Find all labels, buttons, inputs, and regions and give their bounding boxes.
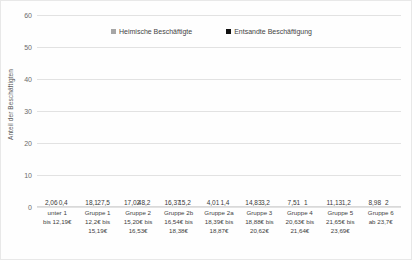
bar-group: 17,0248,2 <box>118 15 158 207</box>
bar-value-label: 15,2 <box>178 200 191 207</box>
legend-item[interactable]: Entsandte Beschäftigung <box>226 28 312 35</box>
category-label: Gruppe 2b16,54€ bis18,38€ <box>158 209 198 255</box>
category-label-line: Gruppe 3 <box>240 209 278 218</box>
bar-value-label: 27,5 <box>97 200 110 207</box>
chart-legend: Heimische BeschäftigteEntsandte Beschäft… <box>111 28 312 35</box>
y-axis-title-text: Anteil der Beschäftigten <box>8 68 15 139</box>
category-label-line: Gruppe 2b <box>159 209 197 218</box>
category-label-line: 18,88€ bis <box>240 218 278 227</box>
category-label-line: Gruppe 4 <box>281 209 319 218</box>
x-axis-category-labels: unter 1bis 12,19€Gruppe 112,2€ bis15,19€… <box>37 209 401 255</box>
bar-value-label: 1 <box>304 200 308 207</box>
category-label-line: bis 12,19€ <box>38 218 76 227</box>
legend-label: Heimische Beschäftigte <box>119 28 192 35</box>
y-axis-tick-label: 0 <box>28 204 32 211</box>
grid-line: 0 <box>37 207 401 208</box>
category-label-line: 21,64€ <box>281 227 319 236</box>
category-label: unter 1bis 12,19€ <box>37 209 77 255</box>
bar-chart: Anteil der Beschäftigten 6050403020100 2… <box>0 0 412 260</box>
category-label-line: 20,63€ bis <box>281 218 319 227</box>
category-label-line: 16,54€ bis <box>159 218 197 227</box>
bar-value-label: 1,2 <box>342 200 351 207</box>
bar-group: 7,511 <box>280 15 320 207</box>
y-axis-title: Anteil der Beschäftigten <box>5 1 17 207</box>
y-axis-tick-label: 50 <box>24 44 32 51</box>
category-label: Gruppe 215,20€ bis16,53€ <box>118 209 158 255</box>
category-label-line: Gruppe 5 <box>321 209 359 218</box>
bar-group: 4,011,4 <box>199 15 239 207</box>
category-label-line: 18,39€ bis <box>200 218 238 227</box>
category-label-line: 20,62€ <box>240 227 278 236</box>
category-label: Gruppe 318,88€ bis20,62€ <box>239 209 279 255</box>
category-label-line: Gruppe 1 <box>78 209 116 218</box>
bar-series-container: 2,060,418,127,517,0248,216,3715,24,011,4… <box>37 15 401 207</box>
category-label: Gruppe 6ab 23,7€ <box>361 209 401 255</box>
bar-value-label: 14,83 <box>245 200 261 207</box>
bar-value-label: 11,13 <box>326 200 342 207</box>
bar-group: 18,127,5 <box>77 15 117 207</box>
category-label-line: Gruppe 2 <box>119 209 157 218</box>
category-label: Gruppe 112,2€ bis15,19€ <box>77 209 117 255</box>
bar-value-label: 0,4 <box>59 200 68 207</box>
bar-group: 14,833,2 <box>239 15 279 207</box>
category-label: Gruppe 2a18,39€ bis18,87€ <box>199 209 239 255</box>
legend-item[interactable]: Heimische Beschäftigte <box>111 28 192 35</box>
category-label-line: unter 1 <box>38 209 76 218</box>
category-label-line: 15,20€ bis <box>119 218 157 227</box>
category-label: Gruppe 420,63€ bis21,64€ <box>280 209 320 255</box>
bar-value-label: 4,01 <box>207 200 220 207</box>
y-axis-tick-label: 10 <box>24 172 32 179</box>
category-label-line: 18,38€ <box>159 227 197 236</box>
bar-value-label: 7,51 <box>288 200 301 207</box>
category-label-line: 15,19€ <box>78 227 116 236</box>
category-label-line: 12,2€ bis <box>78 218 116 227</box>
category-label-line: 23,69€ <box>321 227 359 236</box>
category-label-line: 21,65€ bis <box>321 218 359 227</box>
bar-value-label: 1,4 <box>220 200 229 207</box>
legend-swatch-icon <box>111 29 116 34</box>
bar-value-label: 18,1 <box>85 200 98 207</box>
legend-label: Entsandte Beschäftigung <box>234 28 312 35</box>
bar-value-label: 2 <box>385 200 389 207</box>
bar-group: 8,982 <box>361 15 401 207</box>
category-label-line: ab 23,7€ <box>362 218 400 227</box>
legend-swatch-icon <box>226 29 231 34</box>
bar-group: 16,3715,2 <box>158 15 198 207</box>
bar-value-label: 48,2 <box>138 200 151 207</box>
bar-value-label: 2,06 <box>45 200 58 207</box>
bar-value-label: 3,2 <box>261 200 270 207</box>
y-axis-tick-label: 20 <box>24 140 32 147</box>
y-axis-tick-label: 30 <box>24 108 32 115</box>
category-label-line: 16,53€ <box>119 227 157 236</box>
bar-value-label: 8,98 <box>368 200 381 207</box>
plot-area: 6050403020100 2,060,418,127,517,0248,216… <box>37 15 401 207</box>
y-axis-tick-label: 60 <box>24 12 32 19</box>
category-label-line: 18,87€ <box>200 227 238 236</box>
category-label-line: Gruppe 6 <box>362 209 400 218</box>
bar-group: 2,060,4 <box>37 15 77 207</box>
y-axis-tick-label: 40 <box>24 76 32 83</box>
category-label: Gruppe 521,65€ bis23,69€ <box>320 209 360 255</box>
bar-group: 11,131,2 <box>320 15 360 207</box>
category-label-line: Gruppe 2a <box>200 209 238 218</box>
